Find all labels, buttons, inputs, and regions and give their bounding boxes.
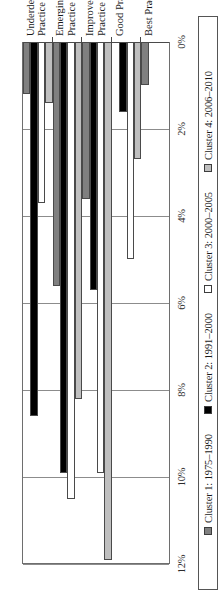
legend-label: Cluster 3: 2000–2005 (203, 192, 214, 281)
category-label-line: Practice (96, 0, 108, 36)
legend-swatch-icon (204, 285, 212, 293)
legend-item[interactable]: Cluster 3: 2000–2005 (203, 192, 214, 293)
value-tick-label: 4% (176, 196, 187, 236)
bar (97, 42, 104, 473)
chart-rotated-canvas: 0%2%4%6%8%10%12% UnderdevelopedPracticeE… (0, 0, 224, 608)
bar (23, 42, 30, 94)
bar (67, 42, 74, 499)
bar (30, 42, 37, 416)
chart-figure: 0%2%4%6%8%10%12% UnderdevelopedPracticeE… (0, 0, 224, 608)
bar-group (112, 42, 142, 563)
category-label: Best Practice (143, 0, 155, 36)
bar-group (82, 42, 112, 563)
category-tick (81, 37, 82, 42)
bar (82, 42, 89, 199)
bar (53, 42, 60, 286)
legend-item[interactable]: Cluster 2: 1991–2000 (203, 313, 214, 414)
bar (104, 42, 111, 560)
bar (45, 42, 52, 103)
bar-group (23, 42, 53, 563)
category-tick (140, 37, 141, 42)
bar (134, 42, 141, 159)
legend-item[interactable]: Cluster 4: 2006–2010 (203, 71, 214, 172)
bar (38, 42, 45, 203)
bar (127, 42, 134, 260)
gridline (23, 564, 169, 565)
chart-legend: Cluster 1: 1975–1990Cluster 2: 1991–2000… (198, 16, 218, 590)
bar-group (141, 42, 171, 563)
value-tick-label: 8% (176, 370, 187, 410)
value-tick-label: 2% (176, 109, 187, 149)
legend-item[interactable]: Cluster 1: 1975–1990 (203, 434, 214, 535)
chart-plot-area: 0%2%4%6%8%10%12% UnderdevelopedPracticeE… (0, 0, 224, 608)
bar (90, 42, 97, 290)
legend-label: Cluster 4: 2006–2010 (203, 71, 214, 160)
bar (75, 42, 82, 399)
category-label-line: Practice (36, 0, 48, 36)
value-tick-label: 6% (176, 283, 187, 323)
category-label: UnderdevelopedPractice (25, 0, 48, 36)
legend-swatch-icon (204, 406, 212, 414)
legend-label: Cluster 2: 1991–2000 (203, 313, 214, 402)
category-label-line: Practice (66, 0, 78, 36)
legend-swatch-icon (204, 164, 212, 172)
legend-swatch-icon (204, 527, 212, 535)
legend-label: Cluster 1: 1975–1990 (203, 434, 214, 523)
value-tick-label: 12% (176, 544, 187, 584)
bar (141, 42, 148, 86)
category-label-line: Improved (84, 0, 96, 36)
category-label: ImprovedPractice (84, 0, 107, 36)
category-label-line: Underdeveloped (25, 0, 37, 36)
category-label-line: Best Practice (143, 0, 155, 36)
category-tick (52, 37, 53, 42)
bar (119, 42, 126, 112)
value-tick-label: 0% (176, 22, 187, 62)
category-label-line: Good Practice (114, 0, 126, 36)
category-label: Good Practice (114, 0, 126, 36)
bar-group (53, 42, 83, 563)
plot-frame (22, 42, 170, 564)
category-label: EmergingPractice (54, 0, 77, 36)
category-tick (111, 37, 112, 42)
bar (60, 42, 67, 473)
category-label-line: Emerging (54, 0, 66, 36)
value-tick-label: 10% (176, 457, 187, 497)
